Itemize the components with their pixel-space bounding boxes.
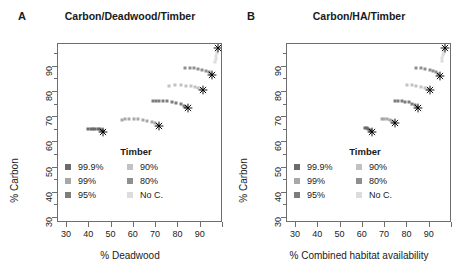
optimum-star-marker bbox=[440, 43, 451, 53]
data-point bbox=[150, 120, 153, 123]
data-point bbox=[179, 84, 182, 87]
x-axis-tick bbox=[200, 222, 201, 227]
x-axis-tick-label: 50 bbox=[334, 229, 344, 239]
data-point bbox=[188, 67, 191, 70]
y-axis-tick-label: 70 bbox=[273, 116, 283, 126]
optimum-star-marker bbox=[197, 85, 208, 96]
legend-b: Timber 99.9%90%99%80%95%No C. bbox=[291, 146, 421, 202]
optimum-star-marker bbox=[98, 127, 109, 138]
y-axis-tick-label: 90 bbox=[273, 66, 283, 76]
legend-swatch bbox=[356, 192, 362, 198]
legend-label: 95% bbox=[307, 190, 349, 200]
x-axis-tick bbox=[222, 222, 223, 227]
x-axis-a: 30405060708090 bbox=[57, 222, 222, 252]
data-point bbox=[170, 100, 173, 103]
x-axis-tick bbox=[406, 222, 407, 227]
x-axis-tick bbox=[451, 222, 452, 227]
data-point bbox=[161, 100, 164, 103]
y-axis-tick-label: 70 bbox=[44, 116, 54, 126]
data-point bbox=[215, 54, 218, 57]
x-axis-tick-label: 70 bbox=[150, 229, 160, 239]
data-point bbox=[415, 84, 418, 87]
x-axis-tick-label: 60 bbox=[357, 229, 367, 239]
data-point bbox=[175, 101, 178, 104]
data-point bbox=[441, 57, 444, 60]
x-axis-tick-label: 70 bbox=[379, 229, 389, 239]
y-axis-title-a: % Carbon bbox=[9, 121, 20, 241]
x-axis-b: 30405060708090 bbox=[286, 222, 451, 252]
optimum-star-marker bbox=[367, 126, 378, 137]
y-axis-tick-label: 30 bbox=[44, 217, 54, 227]
y-axis-b: % Carbon 30405060708090 bbox=[229, 43, 286, 222]
data-point bbox=[124, 118, 127, 121]
legend-label: 95% bbox=[78, 190, 120, 200]
x-axis-tick bbox=[111, 222, 112, 227]
legend-swatch bbox=[294, 164, 300, 170]
data-point bbox=[406, 84, 409, 87]
x-axis-tick-label: 60 bbox=[128, 229, 138, 239]
legend-label: 99% bbox=[307, 176, 349, 186]
x-axis-tick-label: 30 bbox=[61, 229, 71, 239]
data-point bbox=[410, 84, 413, 87]
data-point bbox=[424, 67, 427, 70]
y-axis-tick-label: 30 bbox=[273, 217, 283, 227]
legend-label: 90% bbox=[369, 162, 411, 172]
data-point bbox=[174, 84, 177, 87]
legend-title-a: Timber bbox=[80, 146, 192, 157]
data-point bbox=[185, 84, 188, 87]
y-axis-a: % Carbon 30405060708090 bbox=[0, 43, 57, 222]
x-axis-tick-label: 90 bbox=[195, 229, 205, 239]
x-axis-tick-label: 80 bbox=[401, 229, 411, 239]
data-point bbox=[166, 100, 169, 103]
y-axis-tick-label: 80 bbox=[273, 91, 283, 101]
data-point bbox=[197, 67, 200, 70]
optimum-star-marker bbox=[413, 103, 424, 114]
x-axis-tick bbox=[133, 222, 134, 227]
x-axis-tick bbox=[429, 222, 430, 227]
legend-swatch bbox=[294, 192, 300, 198]
legend-swatch bbox=[294, 178, 300, 184]
x-axis-tick bbox=[340, 222, 341, 227]
data-point bbox=[428, 68, 431, 71]
y-axis-tick-label: 60 bbox=[44, 141, 54, 151]
optimum-star-marker bbox=[182, 103, 193, 114]
data-point bbox=[419, 85, 422, 88]
x-axis-tick bbox=[362, 222, 363, 227]
legend-swatch bbox=[127, 192, 133, 198]
legend-swatch bbox=[127, 178, 133, 184]
data-point bbox=[189, 85, 192, 88]
y-axis-tick-label: 60 bbox=[273, 141, 283, 151]
x-axis-tick-label: 50 bbox=[105, 229, 115, 239]
data-point bbox=[168, 84, 171, 87]
x-axis-tick-label: 40 bbox=[83, 229, 93, 239]
data-point bbox=[419, 67, 422, 70]
optimum-star-marker bbox=[206, 70, 217, 81]
x-axis-tick-label: 40 bbox=[312, 229, 322, 239]
legend-swatch bbox=[65, 164, 71, 170]
legend-label: 80% bbox=[140, 176, 182, 186]
x-axis-tick bbox=[384, 222, 385, 227]
legend-swatch bbox=[356, 178, 362, 184]
x-axis-tick bbox=[155, 222, 156, 227]
panel-b: B Carbon/HA/Timber % Carbon 304050607080… bbox=[229, 0, 458, 278]
data-point bbox=[214, 60, 217, 63]
panel-a: A Carbon/Deadwood/Timber % Carbon 304050… bbox=[0, 0, 229, 278]
y-axis-tick-label: 50 bbox=[44, 167, 54, 177]
y-axis-tick-label: 80 bbox=[44, 91, 54, 101]
legend-a: Timber 99.9%90%99%80%95%No C. bbox=[62, 146, 192, 202]
y-axis-title-b: % Carbon bbox=[238, 121, 249, 241]
legend-label: 99.9% bbox=[78, 162, 120, 172]
optimum-star-marker bbox=[154, 120, 165, 131]
legend-label: 80% bbox=[369, 176, 411, 186]
legend-swatch bbox=[65, 178, 71, 184]
legend-title-b: Timber bbox=[309, 146, 421, 157]
y-axis-tick-label: 90 bbox=[44, 66, 54, 76]
data-point bbox=[214, 57, 217, 60]
legend-label: No C. bbox=[369, 190, 411, 200]
data-point bbox=[120, 118, 123, 121]
x-axis-tick bbox=[177, 222, 178, 227]
legend-swatch bbox=[65, 192, 71, 198]
optimum-star-marker bbox=[389, 117, 400, 128]
data-point bbox=[146, 119, 149, 122]
x-axis-title-b: % Combined habitat availability bbox=[269, 250, 449, 261]
